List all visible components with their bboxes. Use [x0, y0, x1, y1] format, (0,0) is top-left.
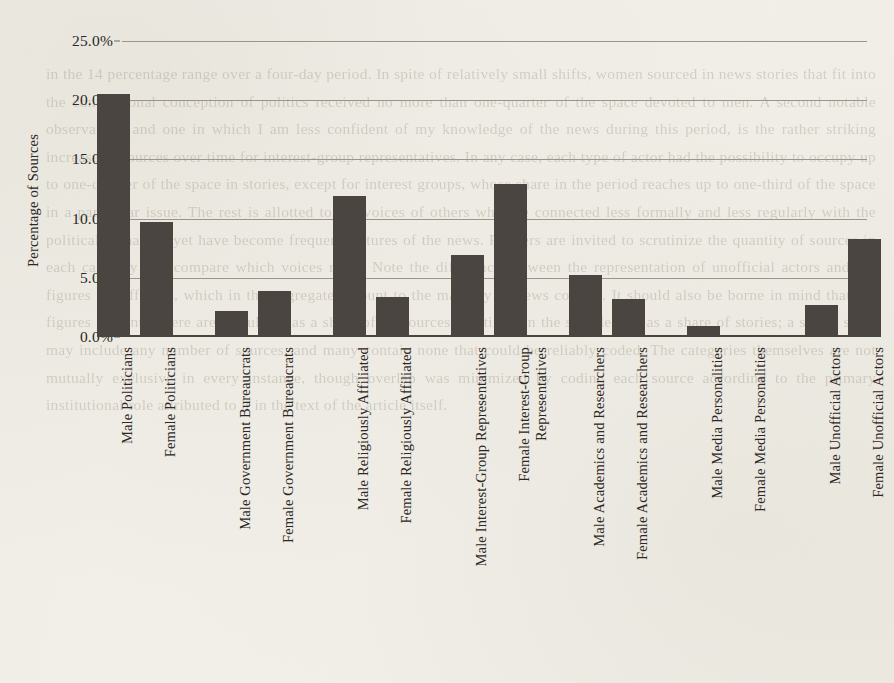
- x-axis-category-label: Male Academics and Researchers: [591, 347, 608, 547]
- category-label-line-1: Female Interest-Group: [516, 347, 532, 482]
- bar: [805, 305, 838, 337]
- category-label-line-1: Female Government Bureaucrats: [280, 347, 296, 543]
- bar: [687, 326, 720, 337]
- x-axis-category-label: Male Unofficial Actors: [827, 347, 844, 485]
- x-axis-category-label: Female Academics and Researchers: [634, 347, 651, 560]
- category-label-line-1: Female Politicians: [162, 347, 178, 457]
- bar: [612, 299, 645, 337]
- x-axis-category-label: Male Government Bureaucrats: [237, 347, 254, 530]
- bar: [451, 255, 484, 337]
- category-label-line-1: Male Media Personalities: [709, 347, 725, 499]
- x-axis-category-label: Male Media Personalities: [709, 347, 726, 499]
- y-axis-tick-mark: [114, 41, 120, 42]
- category-label-line-1: Male Government Bureaucrats: [237, 347, 253, 530]
- category-label-line-1: Male Academics and Researchers: [591, 347, 607, 547]
- category-label-line-2: Representatives: [533, 347, 550, 482]
- bar: [333, 196, 366, 337]
- x-axis-category-label: Male Religiously Affiliated: [355, 347, 372, 510]
- category-label-line-1: Male Religiously Affiliated: [355, 347, 371, 510]
- x-axis-category-label: Female Unofficial Actors: [870, 347, 887, 498]
- bar: [97, 94, 130, 337]
- category-label-line-1: Female Religiously Affiliated: [398, 347, 414, 523]
- x-axis-category-label: Male Politicians: [119, 347, 136, 444]
- bar: [569, 275, 602, 337]
- category-label-line-1: Male Politicians: [119, 347, 135, 444]
- category-label-line-1: Male Interest-Group Representatives: [473, 347, 489, 566]
- bar: [848, 239, 881, 337]
- y-axis-title: Percentage of Sources: [20, 60, 48, 340]
- plot-area: 0.0%5.0%10.0%15.0%20.0%25.0%: [122, 41, 867, 337]
- bar: [258, 291, 291, 337]
- bar-chart: Percentage of Sources 0.0%5.0%10.0%15.0%…: [0, 0, 894, 683]
- x-axis-category-label: Female Media Personalities: [752, 347, 769, 512]
- x-axis-category-label: Female Interest-GroupRepresentatives: [516, 347, 550, 482]
- y-axis-title-text: Percentage of Sources: [26, 133, 43, 266]
- bar: [494, 184, 527, 337]
- x-axis-category-label: Male Interest-Group Representatives: [473, 347, 490, 566]
- bars: [122, 41, 867, 337]
- x-axis-category-label: Female Government Bureaucrats: [280, 347, 297, 543]
- x-axis-category-label: Female Politicians: [162, 347, 179, 457]
- category-label-line-1: Female Academics and Researchers: [634, 347, 650, 560]
- y-axis-tick-label: 25.0%: [72, 32, 113, 50]
- category-label-line-1: Male Unofficial Actors: [827, 347, 843, 485]
- category-label-line-1: Female Unofficial Actors: [870, 347, 886, 498]
- bar: [215, 311, 248, 337]
- bar: [376, 297, 409, 337]
- category-label-line-1: Female Media Personalities: [752, 347, 768, 512]
- x-axis-category-labels: Male PoliticiansFemale PoliticiansMale G…: [122, 341, 867, 683]
- x-axis-category-label: Female Religiously Affiliated: [398, 347, 415, 523]
- bar: [140, 222, 173, 337]
